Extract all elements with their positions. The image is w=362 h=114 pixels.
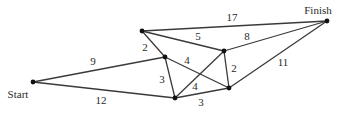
edge-weight-label: 2 [231, 62, 237, 74]
node-start [31, 80, 36, 85]
edge-weight-label: 17 [227, 11, 239, 23]
edge-b-c [165, 57, 175, 98]
edge-weight-label: 5 [195, 30, 201, 42]
node-a [140, 29, 145, 34]
edge-start-b [33, 57, 165, 82]
edge-c-d [175, 51, 224, 98]
node-finish [325, 19, 330, 24]
edge-weight-label: 3 [198, 96, 204, 108]
node-e [227, 86, 232, 91]
node-label-start: Start [8, 88, 29, 100]
edge-a-d [142, 31, 224, 51]
edge-weight-label: 8 [244, 30, 250, 42]
node-c [173, 96, 178, 101]
edge-weight-label: 12 [96, 94, 107, 106]
graph-canvas: 912231758443211 StartFinish [0, 0, 362, 114]
node-d [222, 49, 227, 54]
edge-weights-group: 912231758443211 [90, 11, 288, 108]
edge-weight-label: 3 [159, 73, 165, 85]
edge-weight-label: 9 [90, 55, 96, 67]
node-labels-group: StartFinish [8, 4, 333, 100]
edge-weight-label: 2 [142, 41, 148, 53]
edge-weight-label: 11 [278, 56, 289, 68]
edge-weight-label: 4 [184, 54, 190, 66]
node-label-finish: Finish [304, 4, 332, 16]
node-b [163, 55, 168, 60]
weighted-graph-diagram: 912231758443211 StartFinish [0, 0, 362, 114]
edge-d-e [224, 51, 229, 88]
edge-weight-label: 4 [192, 80, 198, 92]
